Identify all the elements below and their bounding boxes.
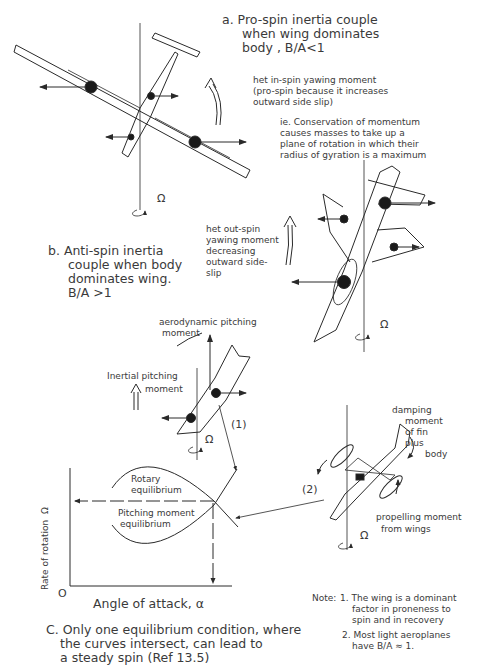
aero-pitch-label-1: aerodynamic pitching: [159, 317, 257, 328]
damping-label-1: damping: [392, 405, 432, 416]
panel-a-yaw-note-1: het in-spin yawing moment: [253, 75, 376, 86]
panel-a-ie-note-4: radius of gyration is a maximum: [280, 150, 426, 161]
damping-label-5: body: [425, 449, 447, 460]
pitching-eq-label-1: Pitching moment: [118, 508, 195, 519]
graph-origin: O: [58, 587, 67, 600]
note-1-line-2: factor in proneness to: [352, 604, 451, 615]
notes-prefix: Note:: [312, 593, 336, 604]
rotary-eq-label-1: Rotary: [131, 474, 160, 485]
panel-b-yaw-note-3: decreasing: [206, 246, 255, 257]
omega-symbol-a: Ω: [157, 192, 165, 205]
marker-1: (1): [231, 418, 247, 431]
propelling-label-1: propelling moment: [376, 512, 462, 523]
omega-symbol-c1: Ω: [205, 433, 213, 446]
panel-a-ie-note-2: causes masses to take up a: [280, 128, 405, 139]
panel-c-caption-2: the curves intersect, can lead to: [60, 636, 263, 651]
panel-b-yaw-note-4: outward side-: [206, 257, 267, 268]
inertial-pitch-label-1: Inertial pitching: [107, 371, 178, 382]
jet-aircraft: [284, 160, 435, 352]
spin-diagram-artwork: [0, 0, 487, 670]
graph-ylabel: Rate of rotation Ω: [40, 507, 51, 590]
panel-a-ie-note-3: plane of rotation in which their: [280, 139, 419, 150]
pitching-eq-label-2: equilibrium: [120, 519, 171, 530]
panel-b-yaw-note-2: yawing moment: [206, 235, 279, 246]
note-2-line-1: 2. Most light aeroplanes: [342, 630, 450, 641]
note-2-line-2: have B/A ≈ 1.: [352, 641, 414, 652]
rotary-eq-label-2: equilibrium: [131, 485, 182, 496]
inertial-pitch-label-2: moment: [145, 384, 183, 395]
damping-label-4: plus: [405, 438, 424, 449]
panel-b-caption-4: B/A >1: [68, 285, 112, 300]
panel-b-caption-2: couple when body: [68, 257, 182, 272]
omega-symbol-b: Ω: [380, 318, 388, 331]
damping-label-2: moment: [405, 416, 443, 427]
panel-b-yaw-note-1: het out-spin: [206, 224, 260, 235]
marker-2: (2): [302, 483, 318, 496]
graph-xlabel: Angle of attack, α: [93, 596, 204, 611]
panel-a-caption-3: body , B/A<1: [242, 40, 325, 55]
damping-label-3: of fin: [405, 427, 428, 438]
aero-pitch-label-2: moment: [162, 328, 200, 339]
aircraft-1: [131, 333, 250, 470]
panel-b-caption-1: b. Anti-spin inertia: [48, 243, 163, 258]
panel-a-yaw-note-2: (pro-spin because it increases: [253, 86, 388, 97]
note-1-line-3: spin and in recovery: [352, 615, 444, 626]
note-1-line-1: 1. The wing is a dominant: [340, 593, 457, 604]
glider-aircraft: [14, 23, 250, 216]
panel-b-yaw-note-5: slip: [206, 268, 221, 279]
panel-b-caption-3: dominates wing.: [68, 271, 171, 286]
propelling-label-2: from wings: [381, 524, 431, 535]
panel-c-caption-1: C. Only one equilibrium condition, where: [46, 622, 301, 637]
panel-a-ie-note-1: ie. Conservation of momentum: [280, 117, 420, 128]
panel-a-caption-1: a. Pro-spin inertia couple: [222, 12, 378, 27]
panel-c-caption-3: a steady spin (Ref 13.5): [60, 650, 209, 665]
panel-a-yaw-note-3: outward side slip): [253, 97, 333, 108]
panel-a-caption-2: when wing dominates: [242, 26, 379, 41]
omega-symbol-c2: Ω: [360, 529, 368, 542]
